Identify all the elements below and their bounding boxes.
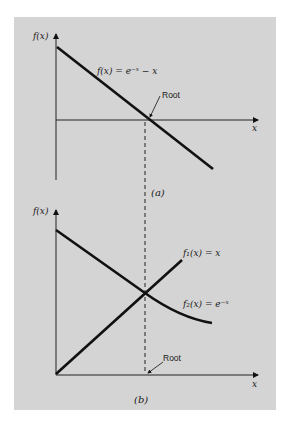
curve-f2: [56, 230, 212, 323]
caption-b: (b): [134, 394, 148, 405]
root-finding-figure: f(x) x f(x) = e⁻ˣ − x Root (a) f(x) x f₁…: [0, 0, 284, 427]
curve-label-a: f(x) = e⁻ˣ − x: [96, 66, 157, 76]
root-label-a: Root: [162, 90, 181, 100]
caption-a: (a): [151, 187, 165, 198]
curve1-label-b: f₁(x) = x: [182, 248, 220, 258]
y-axis-label-b: f(x): [32, 206, 49, 216]
root-pointer-a: [150, 96, 160, 117]
x-axis-label-a: x: [252, 123, 257, 133]
curve2-label-b: f₂(x) = e⁻ˣ: [182, 299, 229, 309]
x-axis-label-b: x: [252, 379, 257, 389]
y-axis-label-a: f(x): [32, 31, 49, 41]
root-label-b: Root: [163, 353, 182, 363]
root-pointer-b: [148, 362, 163, 373]
